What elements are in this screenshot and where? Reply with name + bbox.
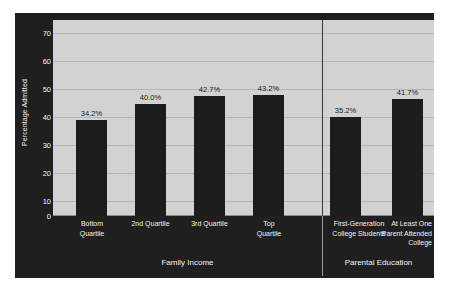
category-labels: Bottom Quartile 2nd Quartile 3rd Quartil… [53,216,434,256]
category-label-3rd-quartile: 3rd Quartile [178,219,241,229]
category-label-top-quartile: Top Quartile [239,219,299,238]
y-tick-10: 10 [43,197,51,206]
y-tick-30: 30 [43,141,51,150]
category-label-line: Parent Attended [364,229,432,239]
group-label-family-income: Family Income [53,258,322,267]
bar-value-label: 43.2% [258,84,279,93]
bar-top-quartile[interactable]: 43.2% [253,95,284,216]
category-label-line: 2nd Quartile [119,219,182,229]
y-tick-0: 0 [47,212,51,221]
y-tick-50: 50 [43,85,51,94]
gridline-60 [53,61,434,62]
category-label-line: Top [239,219,299,229]
group-labels: Family Income Parental Education [53,256,434,276]
gridline-10 [53,201,434,202]
bar-value-label: 40.0% [140,93,161,102]
group-divider-lower [322,216,323,256]
group-divider [322,20,323,216]
category-label-2nd-quartile: 2nd Quartile [119,219,182,229]
bar-at-least-one-parent-attended-college[interactable]: 41.7% [392,99,423,216]
bar-value-label: 42.7% [199,85,220,94]
bar-chart: Percentage Admitted 70 60 50 40 30 20 10… [15,13,434,278]
y-tick-40: 40 [43,113,51,122]
bar-3rd-quartile[interactable]: 42.7% [194,96,225,216]
bar-value-label: 41.7% [397,88,418,97]
category-label-line: College [364,238,432,248]
category-label-line: Bottom [62,219,122,229]
bar-first-generation-college-students[interactable]: 35.2% [330,117,361,216]
category-label-line: 3rd Quartile [178,219,241,229]
category-label-line: Quartile [62,229,122,239]
bar-bottom-quartile[interactable]: 34.2% [76,120,107,216]
category-label-bottom-quartile: Bottom Quartile [62,219,122,238]
y-tick-20: 20 [43,169,51,178]
gridline-30 [53,145,434,146]
group-label-parental-education: Parental Education [323,258,434,267]
gridline-50 [53,89,434,90]
bar-2nd-quartile[interactable]: 40.0% [135,104,166,216]
gridline-70 [53,33,434,34]
y-tick-60: 60 [43,57,51,66]
category-label-at-least-one-parent-attended-college: At Least One Parent Attended College [364,219,432,248]
gridline-20 [53,173,434,174]
y-axis-tick-labels: 70 60 50 40 30 20 10 0 [29,13,53,278]
plot-area: 34.2% 40.0% 42.7% 43.2% 35.2% 41.7% [53,20,434,216]
bar-value-label: 34.2% [81,109,102,118]
category-label-line: At Least One [364,219,432,229]
y-tick-70: 70 [43,29,51,38]
bar-value-label: 35.2% [335,106,356,115]
category-label-line: Quartile [239,229,299,239]
gridline-40 [53,117,434,118]
